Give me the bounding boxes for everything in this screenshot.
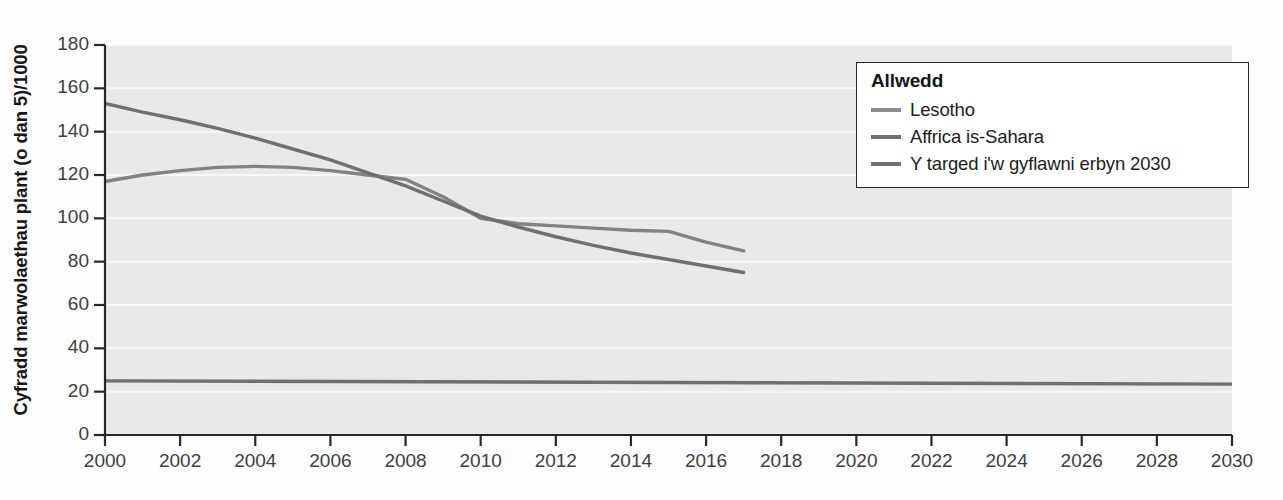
x-tick-label: 2022 bbox=[891, 450, 971, 472]
x-tick-label: 2026 bbox=[1042, 450, 1122, 472]
y-axis-label-text: Cyfradd marwolaethau plant (o dan 5)/100… bbox=[10, 44, 32, 415]
y-axis-label: Cyfradd marwolaethau plant (o dan 5)/100… bbox=[0, 0, 42, 460]
y-tick-label: 40 bbox=[68, 336, 89, 358]
y-tick-marks bbox=[94, 45, 105, 435]
y-tick-label: 0 bbox=[78, 423, 89, 445]
legend-entries: LesothoAffrica is-SaharaY targed i'w gyf… bbox=[871, 96, 1248, 177]
x-tick-label: 2018 bbox=[741, 450, 821, 472]
legend-item-label: Y targed i'w gyflawni erbyn 2030 bbox=[910, 153, 1171, 175]
legend-title: Allwedd bbox=[871, 70, 1248, 92]
legend-item-label: Affrica is-Sahara bbox=[910, 126, 1044, 148]
y-tick-label: 100 bbox=[57, 206, 89, 228]
x-tick-label: 2014 bbox=[591, 450, 671, 472]
x-tick-label: 2008 bbox=[366, 450, 446, 472]
y-tick-label: 120 bbox=[57, 163, 89, 185]
y-tick-label: 60 bbox=[68, 293, 89, 315]
y-tick-label: 140 bbox=[57, 120, 89, 142]
x-tick-label: 2024 bbox=[967, 450, 1047, 472]
legend-item-label: Lesotho bbox=[910, 99, 975, 121]
x-tick-label: 2006 bbox=[290, 450, 370, 472]
x-tick-label: 2030 bbox=[1192, 450, 1272, 472]
x-tick-label: 2016 bbox=[666, 450, 746, 472]
x-tick-label: 2028 bbox=[1117, 450, 1197, 472]
legend-line-icon bbox=[871, 135, 901, 139]
y-tick-label: 160 bbox=[57, 76, 89, 98]
legend-item: Affrica is-Sahara bbox=[871, 123, 1248, 150]
y-tick-label: 80 bbox=[68, 250, 89, 272]
legend-item: Y targed i'w gyflawni erbyn 2030 bbox=[871, 150, 1248, 177]
x-tick-label: 2002 bbox=[140, 450, 220, 472]
x-tick-label: 2004 bbox=[215, 450, 295, 472]
legend-line-icon bbox=[871, 108, 901, 112]
chart-figure: Cyfradd marwolaethau plant (o dan 5)/100… bbox=[0, 0, 1283, 500]
legend-item: Lesotho bbox=[871, 96, 1248, 123]
legend: Allwedd LesothoAffrica is-SaharaY targed… bbox=[856, 62, 1249, 188]
x-tick-label: 2000 bbox=[65, 450, 145, 472]
x-tick-label: 2020 bbox=[816, 450, 896, 472]
x-tick-label: 2012 bbox=[516, 450, 596, 472]
x-tick-marks bbox=[105, 435, 1232, 446]
legend-line-icon bbox=[871, 162, 901, 166]
x-tick-label: 2010 bbox=[441, 450, 521, 472]
y-tick-label: 20 bbox=[68, 380, 89, 402]
y-tick-label: 180 bbox=[57, 33, 89, 55]
